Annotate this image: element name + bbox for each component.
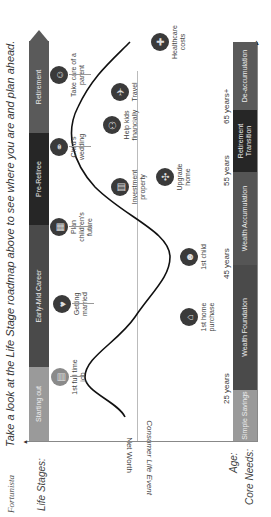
event-connector — [69, 226, 91, 227]
event-label: Plan children's future — [70, 205, 94, 249]
life-stage-segment: Starting out — [29, 367, 49, 441]
event-label: Investment property — [131, 165, 147, 209]
wedding-icon: ⚭ — [50, 138, 68, 156]
core-need-segment: De-accumulation — [233, 42, 257, 110]
document-icon: ▦ — [50, 218, 68, 236]
event-connector — [72, 303, 94, 304]
briefcase-icon: ▤ — [51, 368, 69, 386]
life-stage-segment: Retirement — [29, 41, 49, 133]
life-stage-roadmap: Fortunista Take a look at the Life Stage… — [0, 0, 271, 517]
event-label: 1st full time job — [71, 355, 87, 399]
globe-icon: ✈ — [111, 83, 129, 101]
expand-icon: ✣ — [156, 168, 174, 186]
event-label: Healthcare costs — [171, 20, 187, 64]
event-connector — [69, 74, 91, 75]
life-stage-segment: Early-Mid Career — [29, 225, 49, 367]
life-stage-segment: Pre-Retiree — [29, 133, 49, 225]
core-need-segment: Wealth Accumulation — [233, 172, 257, 265]
event-connector — [69, 146, 91, 147]
hands-icon: ⚇ — [103, 116, 121, 134]
age-marker: 55 years — [222, 155, 231, 186]
event-connector — [70, 376, 84, 377]
event-label: Travel — [131, 70, 139, 114]
age-marker: 25 years — [222, 373, 231, 404]
event-label: Take care of a parent — [70, 53, 86, 97]
event-label: Getting married — [73, 282, 89, 326]
event-label: Upgrade home — [176, 155, 192, 199]
event-label: 1st child — [200, 235, 208, 279]
house-icon: ⌂ — [180, 308, 198, 326]
core-need-segment: Simple Savings — [233, 390, 257, 441]
baby-icon: ☻ — [180, 248, 198, 266]
heart-icon: ♥ — [53, 295, 71, 313]
age-marker: 45 years — [222, 248, 231, 279]
medical-cross-icon: ✚ — [151, 33, 169, 51]
age-marker: 65 years+ — [222, 89, 231, 124]
event-label: Child's wedding — [70, 125, 86, 169]
core-need-segment: Retirement Transition — [233, 110, 257, 172]
family-icon: ☺ — [50, 66, 68, 84]
building-icon: ▥ — [111, 178, 129, 196]
core-need-segment: Wealth Foundation — [233, 265, 257, 390]
event-label: 1st home purchase — [200, 295, 216, 339]
